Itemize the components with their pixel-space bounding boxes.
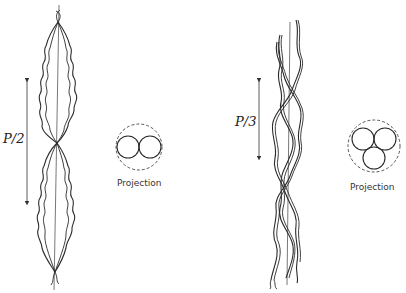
projection-inner-circle-1 — [352, 128, 374, 150]
pitch-label-left: P/2 — [3, 131, 24, 146]
two-strand-helix — [37, 5, 77, 290]
projection-inner-circle-2 — [374, 128, 396, 150]
strand-2 — [272, 20, 300, 283]
three-strand-helix — [270, 20, 303, 289]
projection-three-circles — [348, 120, 400, 172]
projection-label-left: Projection — [117, 178, 162, 188]
projection-inner-circle-1 — [117, 136, 139, 158]
strand-2-upper — [57, 22, 77, 143]
diagram-canvas — [0, 0, 406, 293]
strand-1 — [278, 35, 293, 278]
projection-inner-circle-2 — [139, 136, 161, 158]
projection-inner-circle-3 — [363, 147, 385, 169]
projection-outer-circle — [348, 120, 400, 172]
pitch-label-right: P/3 — [235, 114, 256, 129]
strand-1-lower — [37, 143, 57, 272]
projection-label-right: Projection — [350, 182, 395, 192]
strand-2-lower — [55, 143, 75, 272]
projection-two-circles — [116, 124, 162, 170]
helix-axis — [287, 22, 290, 285]
